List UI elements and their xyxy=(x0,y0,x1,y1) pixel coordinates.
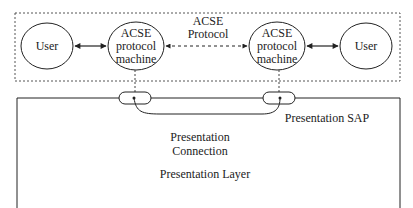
presentation-connection-curve xyxy=(134,98,280,114)
left-user-label: User xyxy=(25,40,69,53)
presentation-sap-label: Presentation SAP xyxy=(277,112,377,125)
presentation-layer-label: Presentation Layer xyxy=(155,168,255,181)
presentation-connection-label-1: Presentation xyxy=(160,131,240,144)
left-machine-label-3: machine xyxy=(110,53,162,66)
presentation-connection-label-2: Connection xyxy=(160,145,240,158)
right-user-label: User xyxy=(344,40,388,53)
acse-protocol-label-2: Protocol xyxy=(180,28,236,41)
right-machine-label-3: machine xyxy=(251,53,303,66)
